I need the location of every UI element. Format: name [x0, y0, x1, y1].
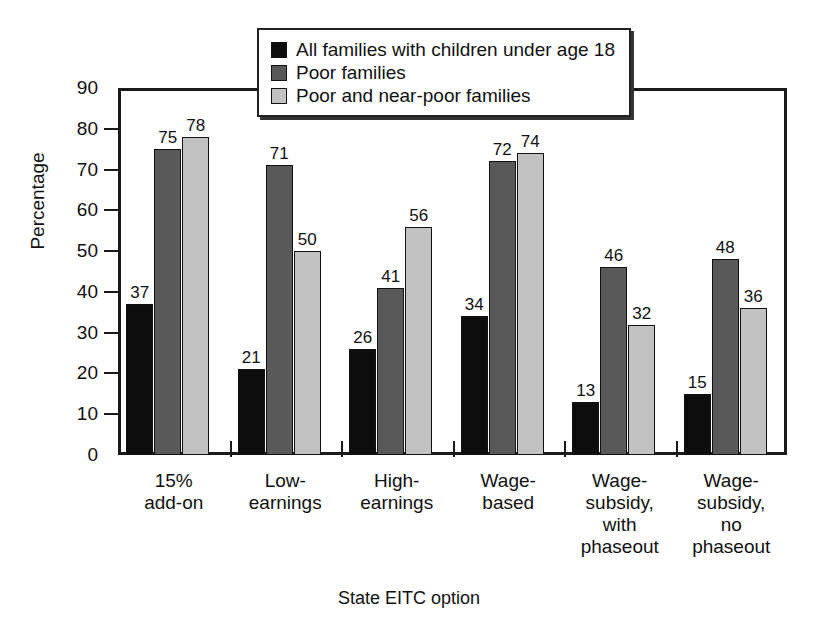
- bar: [572, 402, 599, 455]
- y-axis-tick: [104, 209, 120, 211]
- y-axis-tick: [104, 372, 120, 374]
- x-axis-tick: [453, 441, 455, 457]
- chart-legend: All families with children under age 18 …: [257, 28, 631, 117]
- bar-value-label: 36: [734, 288, 773, 305]
- x-axis-category-label: 15% add-on: [110, 470, 238, 514]
- legend-label: Poor families: [296, 63, 406, 82]
- bar-value-label: 56: [399, 207, 438, 224]
- y-axis-tick-label: 10: [52, 404, 98, 423]
- bar-value-label: 46: [594, 247, 633, 264]
- bar: [238, 369, 265, 455]
- legend-swatch-poor-families: [271, 65, 287, 81]
- y-axis-tick-label: 30: [52, 323, 98, 342]
- legend-swatch-all-families: [271, 42, 287, 58]
- y-axis-tick-label: 90: [52, 78, 98, 97]
- y-axis-tick: [104, 169, 120, 171]
- legend-item[interactable]: All families with children under age 18: [271, 38, 615, 61]
- bar-value-label: 71: [260, 145, 299, 162]
- y-axis-tick-label: 20: [52, 363, 98, 382]
- bar-value-label: 78: [176, 117, 215, 134]
- bar: [600, 267, 627, 455]
- y-axis-tick: [104, 250, 120, 252]
- legend-item[interactable]: Poor and near-poor families: [271, 84, 615, 107]
- bar: [182, 137, 209, 455]
- x-axis-category-label: Wage- subsidy, no phaseout: [668, 470, 796, 557]
- y-axis-tick-label: 0: [52, 445, 98, 464]
- bar: [405, 227, 432, 455]
- bar: [740, 308, 767, 455]
- legend-item[interactable]: Poor families: [271, 61, 615, 84]
- y-axis-tick: [104, 128, 120, 130]
- bar: [377, 288, 404, 455]
- bar: [154, 149, 181, 455]
- legend-swatch-poor-near-poor-families: [271, 88, 287, 104]
- bar-value-label: 74: [511, 133, 550, 150]
- bar: [126, 304, 153, 455]
- bar: [461, 316, 488, 455]
- x-axis-category-label: Wage- based: [445, 470, 573, 514]
- bar: [294, 251, 321, 455]
- bar: [628, 325, 655, 455]
- legend-label: All families with children under age 18: [296, 40, 615, 59]
- bar: [489, 161, 516, 455]
- bar-value-label: 50: [288, 231, 327, 248]
- y-axis-tick-label-group: 0102030405060708090: [40, 0, 98, 644]
- bar: [517, 153, 544, 455]
- y-axis-tick-label: 70: [52, 160, 98, 179]
- x-axis-category-label: High- earnings: [333, 470, 461, 514]
- chart-figure: Percentage 0102030405060708090 State EIT…: [0, 0, 818, 644]
- bar-value-label: 32: [622, 305, 661, 322]
- bar: [684, 394, 711, 455]
- bar: [349, 349, 376, 455]
- y-axis-tick: [104, 291, 120, 293]
- y-axis-tick: [104, 413, 120, 415]
- x-axis-category-label: Low- earnings: [222, 470, 350, 514]
- x-axis-tick: [676, 441, 678, 457]
- y-axis-tick-label: 60: [52, 200, 98, 219]
- bar: [266, 165, 293, 455]
- x-axis-category-label: Wage- subsidy, with phaseout: [556, 470, 684, 557]
- bar-value-label: 48: [706, 239, 745, 256]
- x-axis-title: State EITC option: [0, 588, 818, 609]
- y-axis-tick: [104, 332, 120, 334]
- y-axis-tick-label: 80: [52, 119, 98, 138]
- y-axis-tick-label: 40: [52, 282, 98, 301]
- y-axis-tick-label: 50: [52, 241, 98, 260]
- x-axis-tick: [341, 441, 343, 457]
- x-axis-tick: [564, 441, 566, 457]
- x-axis-tick: [230, 441, 232, 457]
- legend-label: Poor and near-poor families: [296, 86, 530, 105]
